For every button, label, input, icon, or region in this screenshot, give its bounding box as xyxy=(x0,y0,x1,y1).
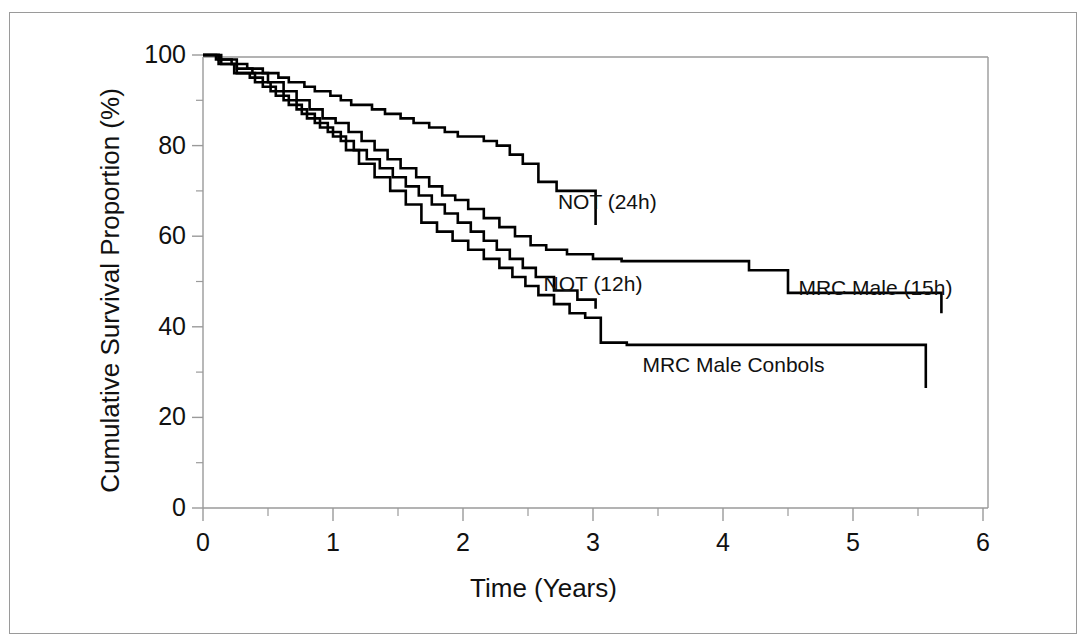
curve-label-2: NOT (12h) xyxy=(544,273,643,294)
curves-group xyxy=(203,55,941,388)
figure-container: 020406080100 0123456 NOT (24h)MRC Male (… xyxy=(0,0,1087,644)
y-tick-label: 20 xyxy=(158,404,186,429)
y-tick-label: 40 xyxy=(158,314,186,339)
curve-label-0: NOT (24h) xyxy=(558,191,657,212)
x-tick-label: 4 xyxy=(703,530,743,555)
x-tick-label: 2 xyxy=(443,530,483,555)
y-axis-title: Cumulative Survival Proportion (%) xyxy=(95,76,126,506)
x-tick-label: 5 xyxy=(833,530,873,555)
x-tick-label: 6 xyxy=(963,530,1003,555)
x-tick-label: 1 xyxy=(313,530,353,555)
survival-curve-2 xyxy=(203,55,596,309)
x-tick-label: 3 xyxy=(573,530,613,555)
x-axis-title: Time (Years) xyxy=(0,573,1087,604)
x-tick-label: 0 xyxy=(183,530,223,555)
curve-label-3: MRC Male Conbols xyxy=(642,354,824,375)
curve-label-1: MRC Male (15h) xyxy=(798,277,952,298)
y-tick-label: 80 xyxy=(158,133,186,158)
y-tick-label: 100 xyxy=(144,42,186,67)
y-tick-label: 60 xyxy=(158,223,186,248)
survival-curve-3 xyxy=(203,55,926,388)
y-tick-label: 0 xyxy=(172,495,186,520)
